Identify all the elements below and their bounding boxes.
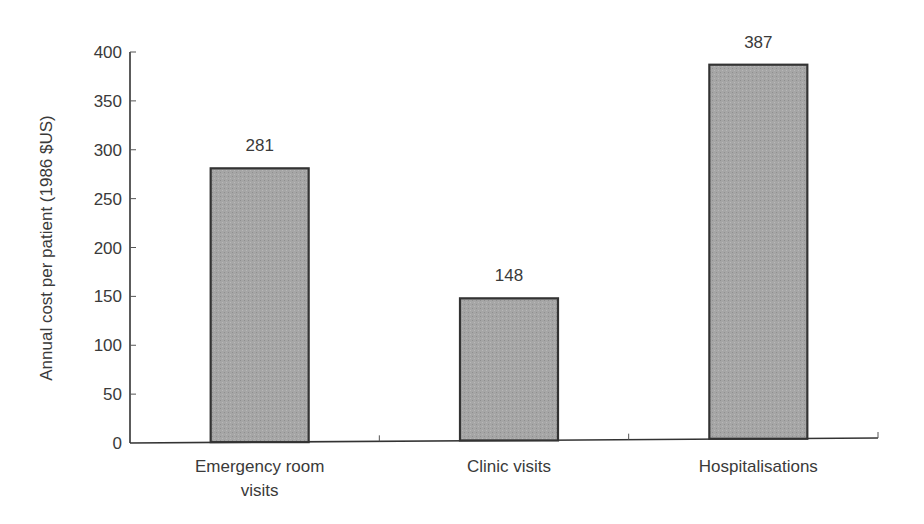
y-tick-label: 400: [94, 43, 122, 62]
y-tick-label: 250: [94, 190, 122, 209]
x-category-label: visits: [241, 481, 279, 500]
x-category-label: Clinic visits: [467, 457, 551, 476]
y-tick-label: 0: [113, 434, 122, 453]
y-tick-label: 200: [94, 239, 122, 258]
y-tick-label: 150: [94, 287, 122, 306]
x-category-label: Hospitalisations: [699, 457, 818, 476]
y-tick-label: 100: [94, 336, 122, 355]
x-category-label: Emergency room: [195, 457, 324, 476]
bar-value-label: 387: [744, 33, 772, 52]
y-tick-label: 300: [94, 141, 122, 160]
bar-chart: 050100150200250300350400 281Emergency ro…: [0, 0, 924, 524]
bar: [211, 168, 309, 442]
bar: [709, 65, 807, 439]
y-tick-label: 350: [94, 92, 122, 111]
y-tick-label: 50: [103, 385, 122, 404]
bar-value-label: 148: [495, 266, 523, 285]
bar: [460, 298, 558, 440]
bar-value-label: 281: [245, 136, 273, 155]
y-axis: 050100150200250300350400: [94, 43, 136, 453]
y-axis-title: Annual cost per patient (1986 $US): [37, 115, 56, 381]
bars: [211, 65, 808, 442]
